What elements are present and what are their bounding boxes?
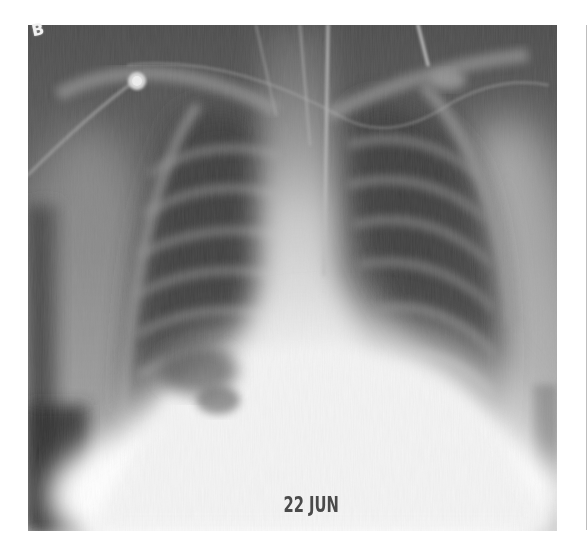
panel-label: B [28, 20, 47, 41]
xray-rendering [28, 25, 557, 531]
page-divider-line [586, 25, 587, 530]
date-annotation: 22 JUN [280, 492, 342, 518]
chest-xray-image [28, 25, 557, 531]
